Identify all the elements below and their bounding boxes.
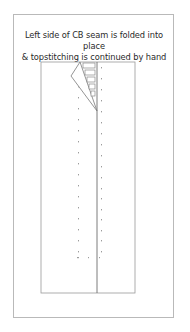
cb-seam-diagram: [0, 0, 190, 332]
right-topstitch-row: [101, 67, 102, 252]
